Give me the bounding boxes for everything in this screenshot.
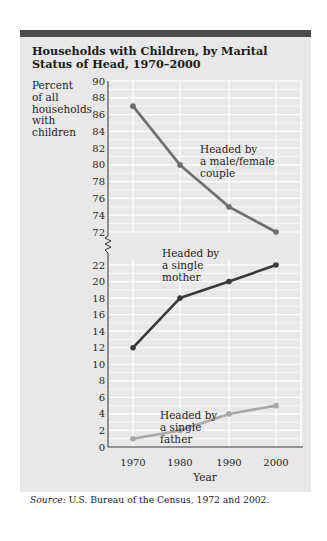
x-tick-label: 1990 [216,457,241,468]
y-tick-label: 18 [92,293,105,304]
y-tick-label: 22 [92,260,105,271]
y-tick-label: 14 [92,326,105,337]
data-point [273,262,279,268]
y-tick-label: 72 [92,227,105,238]
series-annotation: father [160,433,193,445]
data-point [177,295,183,301]
series-annotation: a male/female [200,155,275,167]
data-point [226,279,232,285]
y-tick-label: 80 [92,159,105,170]
source-label: Source: [30,494,66,505]
y-tick-label: 84 [92,126,105,137]
y-tick-label: 4 [99,408,105,419]
axis-break [105,236,111,253]
y-tick-label: 86 [92,109,105,120]
y-tick-label: 2 [99,425,105,436]
series-annotation: mother [162,271,201,283]
y-tick-label: 82 [92,143,105,154]
data-point [273,403,279,409]
data-point [177,162,183,168]
series-annotation: Headed by [162,247,219,259]
source-text: U.S. Bureau of the Census, 1972 and 2002… [66,494,270,505]
data-point [130,103,136,109]
data-point [226,411,232,417]
y-tick-label: 8 [99,375,105,386]
y-tick-label: 20 [92,276,105,287]
y-tick-label: 12 [92,342,105,353]
x-tick-label: 1970 [120,457,145,468]
x-tick-label: 1980 [167,457,192,468]
y-tick-label: 6 [99,392,105,403]
series-annotation: Headed by [160,409,217,421]
y-tick-label: 76 [92,193,105,204]
data-point [226,204,232,210]
y-tick-label: 0 [99,442,105,453]
series-annotation: Headed by [200,143,257,155]
y-tick-label: 74 [92,210,105,221]
data-point [130,345,136,351]
x-axis-label: Year [192,471,217,483]
y-tick-label: 10 [92,359,105,370]
y-tick-label: 88 [92,92,105,103]
y-tick-label: 16 [92,309,105,320]
data-point [130,436,136,442]
source-note: Source: U.S. Bureau of the Census, 1972 … [30,494,269,505]
series-annotation: a single [162,259,203,271]
series-annotation: a single [160,421,201,433]
data-point [273,229,279,235]
y-tick-label: 90 [92,76,105,87]
x-tick-label: 2000 [263,457,288,468]
line-chart: 7274767880828486889002468101214161820221… [0,0,327,541]
series-annotation: couple [200,167,235,179]
y-tick-label: 78 [92,176,105,187]
